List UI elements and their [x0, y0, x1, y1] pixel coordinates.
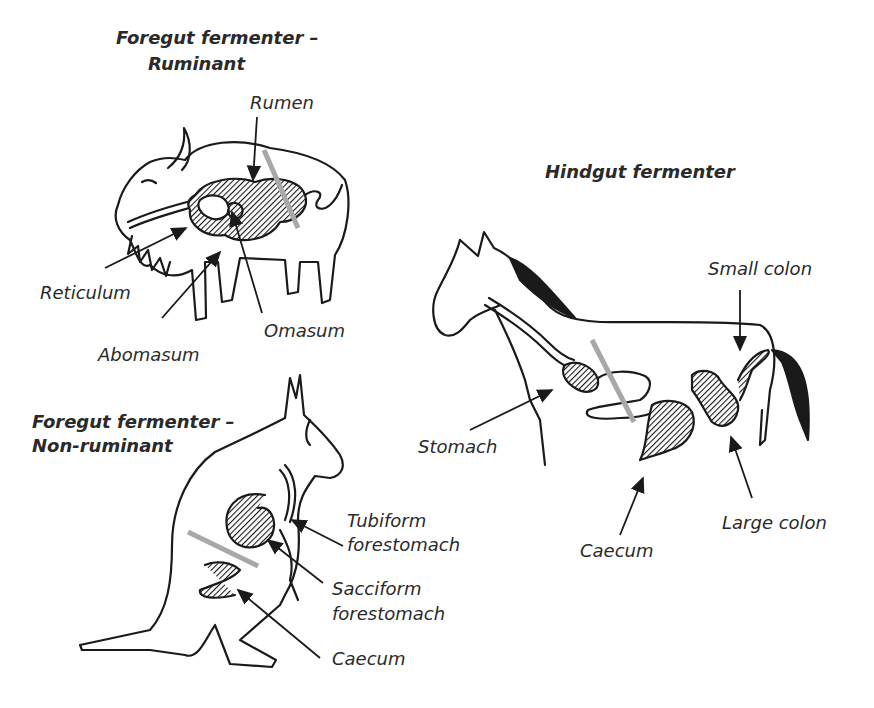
arrow-sacciform	[268, 540, 323, 583]
non-ruminant-title-line1: Foregut fermenter –	[32, 410, 235, 434]
arrow-rumen	[253, 117, 257, 180]
label-reticulum: Reticulum	[40, 282, 131, 304]
ruminant-title-line1: Foregut fermenter –	[116, 26, 319, 50]
label-caecum-kangaroo: Caecum	[332, 648, 406, 670]
hindgut-title: Hindgut fermenter	[545, 160, 735, 184]
arrow-caecum-horse	[620, 478, 643, 535]
arrow-large-colon	[731, 437, 752, 498]
non-ruminant-title-line2: Non-ruminant	[32, 434, 173, 458]
label-sacciform-1: Sacciform	[332, 578, 422, 600]
label-sacciform-2: forestomach	[332, 603, 445, 625]
label-stomach: Stomach	[418, 436, 497, 458]
arrow-reticulum	[105, 228, 186, 268]
label-rumen: Rumen	[250, 92, 314, 114]
label-caecum-horse: Caecum	[580, 540, 654, 562]
label-omasum: Omasum	[264, 320, 345, 342]
label-tubiform-1: Tubiform	[347, 510, 426, 532]
ruminant-title-line2: Ruminant	[148, 52, 245, 76]
label-small-colon: Small colon	[708, 258, 812, 280]
label-abomasum: Abomasum	[98, 344, 200, 366]
arrow-caecum-kangaroo	[238, 590, 320, 658]
label-large-colon: Large colon	[722, 512, 827, 534]
digestive-systems-diagram: Foregut fermenter – Ruminant Rumen Retic…	[0, 0, 874, 708]
bison-illustration	[116, 128, 349, 320]
label-tubiform-2: forestomach	[347, 534, 460, 556]
